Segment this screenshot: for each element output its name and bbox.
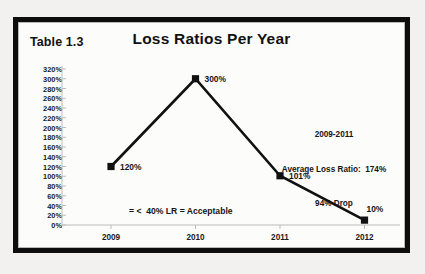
summary-annotation: 2009-2011 Average Loss Ratio: 174% 94% D… (267, 106, 401, 233)
x-axis-tick-label: 2011 (271, 233, 289, 242)
figure-root: Table 1.3 Loss Ratios Per Year 320%300%2… (0, 0, 425, 274)
data-point-label: 120% (120, 162, 141, 172)
summary-line-1: 2009-2011 (267, 129, 401, 141)
threshold-note: = < 40% LR = Acceptable (129, 206, 233, 216)
x-axis-tick-label: 2009 (102, 233, 120, 242)
x-axis-tick-label: 2010 (186, 233, 204, 242)
data-point-marker (192, 75, 199, 82)
data-point-label: 300% (205, 74, 226, 84)
summary-line-2: Average Loss Ratio: 174% (267, 164, 401, 176)
x-axis-tick-label: 2012 (355, 233, 373, 242)
data-point-marker (107, 163, 114, 170)
summary-line-3: 94% Drop (267, 198, 401, 210)
chart-plate: Table 1.3 Loss Ratios Per Year 320%300%2… (18, 22, 405, 248)
